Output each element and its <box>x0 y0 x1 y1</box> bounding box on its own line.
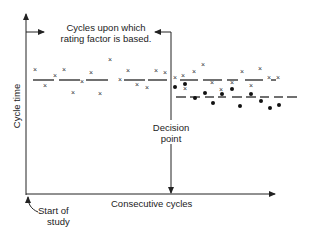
svg-text:×: × <box>145 84 149 91</box>
svg-text:×: × <box>126 67 130 74</box>
svg-text:×: × <box>71 89 75 96</box>
svg-text:×: × <box>89 69 93 76</box>
svg-text:×: × <box>249 82 253 89</box>
svg-text:×: × <box>135 81 139 88</box>
svg-text:×: × <box>210 79 214 86</box>
svg-text:×: × <box>267 74 271 81</box>
decision-line2: point <box>146 133 196 144</box>
x-markers: × × × × × × × × × × × × × × × × × × × × … <box>33 56 280 97</box>
decision-line1: Decision <box>146 122 196 133</box>
svg-text:×: × <box>183 85 187 92</box>
svg-text:×: × <box>181 72 185 79</box>
svg-text:×: × <box>276 74 280 81</box>
start-of-study-label: Start of study <box>38 205 70 227</box>
start-line1: Start of <box>38 205 70 216</box>
svg-text:×: × <box>80 78 84 85</box>
dot-markers <box>173 82 281 110</box>
svg-text:×: × <box>201 61 205 68</box>
rating-cycles-note: Cycles upon which rating factor is based… <box>56 22 156 44</box>
svg-text:×: × <box>53 72 57 79</box>
svg-text:×: × <box>43 82 47 89</box>
start-arrow <box>28 197 38 212</box>
svg-text:×: × <box>163 69 167 76</box>
rating-note-line1: Cycles upon which <box>56 22 156 33</box>
svg-text:×: × <box>192 68 196 75</box>
svg-text:×: × <box>108 56 112 63</box>
svg-text:×: × <box>33 66 37 73</box>
decision-point-label: Decision point <box>146 122 196 144</box>
svg-text:×: × <box>240 68 244 75</box>
svg-text:×: × <box>118 76 122 83</box>
svg-text:×: × <box>173 74 177 81</box>
svg-text:×: × <box>62 66 66 73</box>
svg-text:×: × <box>98 90 102 97</box>
rating-note-line2: rating factor is based. <box>56 33 156 44</box>
svg-text:×: × <box>258 65 262 72</box>
x-axis-label: Consecutive cycles <box>111 198 192 209</box>
start-line2: study <box>38 216 70 227</box>
svg-text:×: × <box>219 86 223 93</box>
svg-text:×: × <box>154 67 158 74</box>
svg-text:×: × <box>230 79 234 86</box>
y-axis-label: Cycle time <box>11 84 22 128</box>
